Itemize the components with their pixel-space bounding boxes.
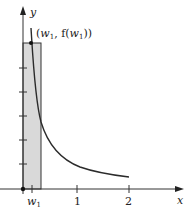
x-tick-label-1: 1 bbox=[74, 195, 81, 208]
y-axis-arrow-icon bbox=[20, 6, 26, 15]
origin-point bbox=[21, 187, 25, 191]
x-tick-label-w1: w1 bbox=[27, 195, 41, 209]
x-axis-arrow-icon bbox=[175, 186, 184, 192]
point-label: (w1, f(w1)) bbox=[36, 27, 92, 41]
function-curve bbox=[31, 28, 129, 177]
point-w1-fw1 bbox=[29, 41, 33, 45]
y-axis-label: y bbox=[29, 6, 37, 19]
x-tick-label-2: 2 bbox=[125, 195, 132, 208]
diagram: y x (w1, f(w1)) w1 1 2 bbox=[0, 0, 189, 211]
x-axis-label: x bbox=[177, 194, 184, 207]
